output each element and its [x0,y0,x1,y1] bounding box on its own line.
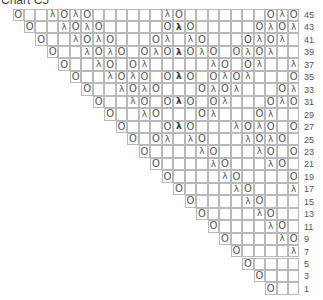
decrease-icon: λ [165,135,170,144]
chart-cell: O [104,33,115,45]
yarn-over-icon: O [221,159,229,169]
chart-cell: λ [116,83,127,95]
chart-cell: λ [242,133,253,145]
decrease-icon: λ [268,110,273,119]
chart-cell: O [70,21,81,33]
chart-cell [208,195,219,207]
decrease-bold-icon: λ [176,97,182,106]
chart-cell: O [81,9,92,21]
chart-cell: O [162,46,173,58]
row-number: 7 [304,246,309,258]
chart-cell [288,258,299,270]
chart-cell [265,58,276,70]
decrease-icon: λ [257,147,262,156]
yarn-over-icon: O [267,97,275,107]
decrease-icon: λ [291,85,296,94]
decrease-icon: λ [268,135,273,144]
chart-cell [288,33,299,45]
chart-cell [173,33,184,45]
decrease-icon: λ [268,48,273,57]
chart-cell [139,21,150,33]
chart-cell [196,58,207,70]
chart-cell: O [185,46,196,58]
decrease-icon: λ [280,97,285,106]
yarn-over-icon: O [232,246,240,256]
decrease-icon: λ [245,48,250,57]
yarn-over-icon: O [141,47,149,57]
chart-cell: O [127,83,138,95]
chart-cell [47,21,58,33]
yarn-over-icon: O [186,196,194,206]
row-number: 1 [304,283,309,295]
chart-cell [231,220,242,232]
chart-cell: λ [185,133,196,145]
yarn-over-icon: O [290,122,298,132]
yarn-over-icon: O [267,284,275,294]
chart-cell [242,21,253,33]
chart-cell [277,270,288,282]
chart-cell [58,46,69,58]
chart-cell: λ [81,21,92,33]
yarn-over-icon: O [221,84,229,94]
chart-cell [254,233,265,245]
chart-cell [150,21,161,33]
chart-cell [173,145,184,157]
chart-cell [219,33,230,45]
decrease-icon: λ [211,160,216,169]
chart-cell [231,133,242,145]
yarn-over-icon: O [278,84,286,94]
yarn-over-icon: O [95,22,103,32]
yarn-over-icon: O [198,109,206,119]
decrease-icon: λ [280,10,285,19]
chart-cell: O [208,145,219,157]
chart-cell [219,183,230,195]
yarn-over-icon: O [106,60,114,70]
chart-cell: λ [288,21,299,33]
chart-cell: O [231,245,242,257]
chart-cell: O [219,58,230,70]
chart-cell [254,158,265,170]
chart-cell [277,121,288,133]
chart-cell: λ [173,121,184,133]
chart-cell [288,133,299,145]
chart-cell: O [116,46,127,58]
chart-cell: O [219,158,230,170]
yarn-over-icon: O [198,134,206,144]
chart-cell [127,121,138,133]
chart-cell [231,233,242,245]
chart-cell [288,108,299,120]
chart-cell: O [185,21,196,33]
chart-cell: O [242,258,253,270]
row-number: 41 [304,34,314,46]
chart-cell [242,220,253,232]
decrease-icon: λ [165,35,170,44]
chart-cell: λ [231,83,242,95]
chart-cell [288,270,299,282]
chart-cell: O [288,71,299,83]
chart-cell: O [150,83,161,95]
yarn-over-icon: O [290,72,298,82]
chart-cell [288,220,299,232]
chart-cell: O [93,46,104,58]
decrease-bold-icon: λ [176,122,182,131]
chart-cell: O [254,133,265,145]
chart-cell: λ [265,108,276,120]
chart-cell [254,9,265,21]
yarn-over-icon: O [14,10,22,20]
yarn-over-icon: O [186,22,194,32]
chart-cell [196,158,207,170]
yarn-over-icon: O [175,10,183,20]
decrease-icon: λ [188,35,193,44]
chart-cell [277,183,288,195]
yarn-over-icon: O [290,97,298,107]
chart-cell [173,58,184,70]
yarn-over-icon: O [186,47,194,57]
chart-cell [288,208,299,220]
yarn-over-icon: O [175,184,183,194]
chart-cell: O [70,71,81,83]
chart-cell [219,208,230,220]
decrease-icon: λ [257,209,262,218]
chart-cell: O [288,170,299,182]
chart-cell: O [208,71,219,83]
chart-cell [93,83,104,95]
